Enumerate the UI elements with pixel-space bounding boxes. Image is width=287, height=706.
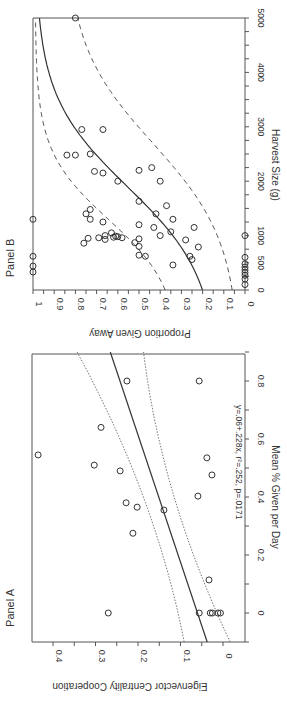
panel-b-data-point bbox=[136, 198, 142, 204]
panel-a-data-point bbox=[35, 452, 41, 458]
panel-b-y-tick-label: 0.5 bbox=[140, 298, 150, 311]
panel-b-y-tick-label: 0.1 bbox=[225, 298, 235, 311]
panel-b-data-point bbox=[100, 219, 106, 225]
panel-b-x-tick-label: 1000 bbox=[256, 226, 266, 245]
panel-a-data-point bbox=[130, 530, 136, 536]
panel-a-x-tick-label: 0.6 bbox=[256, 433, 266, 446]
panel-a-data-point bbox=[206, 577, 212, 583]
panel-b-data-point bbox=[87, 216, 93, 222]
panel-b-x-tick-label: 4000 bbox=[256, 63, 266, 82]
panel-b-data-point bbox=[136, 252, 142, 258]
panel-b-x-tick-label: 500 bbox=[256, 256, 266, 270]
panel-b-title: Panel B bbox=[4, 239, 16, 278]
panel-b-x-label: Harvest Size (g) bbox=[270, 129, 281, 201]
panel-b-data-point bbox=[91, 168, 97, 174]
panel-b-data-point bbox=[170, 216, 176, 222]
panel-a-title: Panel A bbox=[4, 588, 16, 627]
panel-b-data-point bbox=[157, 233, 163, 239]
panel-a-x-label: Mean % Given per Day bbox=[270, 445, 281, 548]
panel-b-data-point bbox=[195, 244, 201, 250]
panel-a-y-tick-label: 0.3 bbox=[97, 650, 107, 663]
panel-b-y-label: Proportion Given Away bbox=[89, 328, 191, 339]
panel-b-y-tick-label: 0.9 bbox=[55, 298, 65, 311]
panel-b-data-point bbox=[170, 262, 176, 268]
panel-b-y-tick-label: 0 bbox=[246, 301, 256, 306]
panel-b-data-point bbox=[142, 253, 148, 259]
panel-a-x-tick-label: 0 bbox=[256, 610, 266, 615]
panel-b-data-point bbox=[136, 243, 142, 249]
panel-b-data-point bbox=[85, 235, 91, 241]
panel-b-data-point bbox=[81, 240, 87, 246]
panel-b-data-point bbox=[136, 167, 142, 173]
panel-a-data-point bbox=[98, 424, 104, 430]
panel-b-data-point bbox=[64, 152, 70, 158]
panel-b-y-tick-label: 0.6 bbox=[119, 298, 129, 311]
panel-a-data-point bbox=[117, 468, 123, 474]
panel-b: 050010002000300040005000Harvest Size (g)… bbox=[4, 9, 281, 339]
panel-b-data-point bbox=[115, 178, 121, 184]
panel-a-x-tick-label: 0.4 bbox=[256, 491, 266, 504]
panel-a-upper-ci bbox=[77, 352, 184, 642]
panel-b-data-point bbox=[100, 170, 106, 176]
panel-a-data-point bbox=[105, 610, 111, 616]
panel-a-data-point bbox=[91, 462, 97, 468]
panel-b-y-tick-label: 1 bbox=[34, 301, 44, 306]
panel-a-y-tick-label: 0.1 bbox=[182, 650, 192, 663]
panel-b-x-tick-label: 2000 bbox=[256, 172, 266, 191]
panel-b-y-tick-label: 0.3 bbox=[182, 298, 192, 311]
panel-a-y-tick-label: 0.2 bbox=[139, 650, 149, 663]
panel-b-data-point bbox=[157, 178, 163, 184]
panel-b-y-tick-label: 0.8 bbox=[76, 298, 86, 311]
panel-b-y-tick-label: 0.7 bbox=[98, 298, 108, 311]
panel-b-x-tick-label: 5000 bbox=[256, 9, 266, 28]
rotated-figure: 00.20.40.60.8Mean % Given per Day00.10.2… bbox=[0, 0, 287, 706]
panel-a-data-point bbox=[134, 504, 140, 510]
panel-a-data-point bbox=[123, 500, 129, 506]
panel-a-y-tick-label: 0.4 bbox=[54, 650, 64, 663]
panel-a-data-point bbox=[124, 378, 130, 384]
panel-a-y-label: Eigenvector Centrality Cooperation bbox=[52, 681, 207, 692]
panel-a: 00.20.40.60.8Mean % Given per Day00.10.2… bbox=[4, 352, 281, 692]
panel-b-data-point bbox=[191, 224, 197, 230]
panel-b-data-point bbox=[164, 203, 170, 209]
panel-a-y-tick-label: 0 bbox=[224, 653, 234, 658]
panel-b-data-point bbox=[72, 152, 78, 158]
panel-b-y-tick-label: 0.4 bbox=[161, 298, 171, 311]
panel-a-fit-equation: y=.06+.228x, r²=.252, p=.0171 bbox=[234, 405, 244, 520]
panel-b-y-tick-label: 0.2 bbox=[204, 298, 214, 311]
panel-b-data-point bbox=[79, 127, 85, 133]
panel-a-data-point bbox=[196, 378, 202, 384]
panel-b-lower-ci bbox=[78, 18, 232, 290]
panel-b-data-point bbox=[119, 235, 125, 241]
panel-b-x-tick-label: 3000 bbox=[256, 117, 266, 136]
panel-b-data-point bbox=[87, 151, 93, 157]
panel-a-fit-line bbox=[110, 352, 207, 642]
panel-a-data-point bbox=[209, 472, 215, 478]
panel-b-x-tick-label: 0 bbox=[256, 288, 266, 293]
panel-a-data-point bbox=[195, 493, 201, 499]
panel-a-data-point bbox=[204, 455, 210, 461]
panel-b-data-point bbox=[102, 236, 108, 242]
panel-b-data-point bbox=[136, 222, 142, 228]
panel-b-data-point bbox=[149, 165, 155, 171]
panel-a-lower-ci bbox=[144, 352, 231, 642]
panel-b-data-point bbox=[100, 127, 106, 133]
panel-b-upper-ci bbox=[36, 18, 166, 290]
panel-b-data-point bbox=[151, 224, 157, 230]
panel-a-x-tick-label: 0.2 bbox=[256, 549, 266, 562]
panel-b-data-point bbox=[183, 237, 189, 243]
panel-b-data-point bbox=[83, 211, 89, 217]
panel-b-data-point bbox=[96, 235, 102, 241]
panel-a-x-tick-label: 0.8 bbox=[256, 375, 266, 388]
